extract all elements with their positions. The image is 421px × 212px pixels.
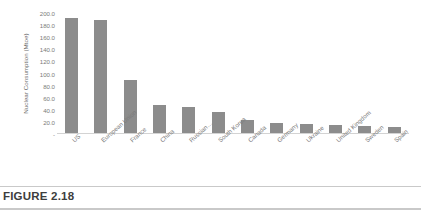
y-axis-tick: 200.0 <box>33 10 55 17</box>
x-label-slot: China <box>145 135 174 180</box>
y-axis-tick: 60.0 <box>33 94 55 101</box>
caption-divider-bottom <box>0 208 421 210</box>
x-label-slot: France <box>116 135 145 180</box>
bar-slot <box>57 13 86 133</box>
x-label-slot: European Union <box>86 135 115 180</box>
y-axis-tick: 180.0 <box>33 22 55 29</box>
bar-slot <box>233 13 262 133</box>
bar <box>212 112 225 133</box>
bar-slot <box>86 13 115 133</box>
y-axis-tick: 20.0 <box>33 118 55 125</box>
bar-slot <box>145 13 174 133</box>
y-axis-tick: 80.0 <box>33 82 55 89</box>
x-label-slot: United Kingdom <box>321 135 350 180</box>
bar-slot <box>204 13 233 133</box>
y-axis-tick: 100.0 <box>33 70 55 77</box>
bar-slot <box>380 13 409 133</box>
bar-series <box>57 13 409 133</box>
y-axis-title-label: Nuclear Consumption (Mtoe) <box>22 33 29 113</box>
x-axis-category-label: US <box>70 133 81 144</box>
x-label-slot: Spain <box>380 135 409 180</box>
y-axis-tick: 140.0 <box>33 46 55 53</box>
bar <box>124 80 137 133</box>
x-label-slot: Canada <box>233 135 262 180</box>
x-label-slot: US <box>57 135 86 180</box>
figure-container: Nuclear Consumption (Mtoe) 200.0180.0160… <box>0 0 421 212</box>
y-axis-title: Nuclear Consumption (Mtoe) <box>18 12 32 134</box>
figure-caption: FIGURE 2.18 <box>3 190 74 202</box>
bar <box>153 105 166 133</box>
bar-slot <box>174 13 203 133</box>
x-label-slot: Russian… <box>174 135 203 180</box>
bar-slot <box>262 13 291 133</box>
y-axis-tick-labels: 200.0180.0160.0140.0120.0100.080.060.040… <box>33 13 55 134</box>
bar <box>65 18 78 133</box>
x-label-slot: Ukraine <box>292 135 321 180</box>
y-axis-tick: 40.0 <box>33 106 55 113</box>
caption-divider-top <box>0 186 421 187</box>
bar <box>182 107 195 133</box>
bar-chart: Nuclear Consumption (Mtoe) 200.0180.0160… <box>0 0 421 180</box>
x-axis-category-labels: USEuropean UnionFranceChinaRussian…South… <box>57 135 409 180</box>
x-label-slot: Sweden <box>350 135 379 180</box>
bar-slot <box>321 13 350 133</box>
y-axis-tick: 160.0 <box>33 34 55 41</box>
x-label-slot: South Korea <box>204 135 233 180</box>
bar-slot <box>292 13 321 133</box>
y-axis-tick: - <box>33 131 55 138</box>
x-label-slot: Germany <box>262 135 291 180</box>
plot-area <box>57 13 409 134</box>
y-axis-tick: 120.0 <box>33 58 55 65</box>
bar <box>94 20 107 133</box>
